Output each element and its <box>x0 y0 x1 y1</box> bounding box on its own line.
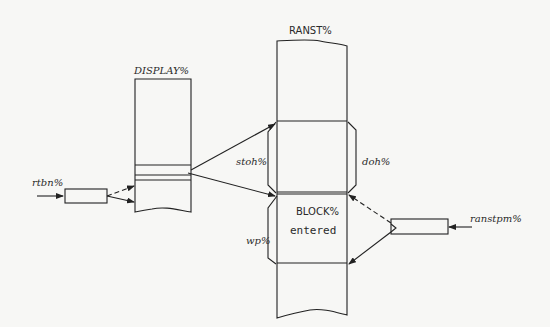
wp-bracket-line <box>268 196 277 264</box>
display-to-block-arrow <box>188 173 275 196</box>
doh-bracket: doh% <box>348 122 390 193</box>
wp-label: wp% <box>246 235 270 246</box>
ranstpm-box <box>391 219 448 234</box>
rtbn-label: rtbn% <box>32 177 63 188</box>
rtbn-solid-arrow <box>107 196 134 202</box>
ranst-stack: RANST% BLOCK% entered <box>277 25 347 318</box>
ranstpm-dashed-arrow <box>349 195 391 223</box>
rtbn-box <box>65 189 107 203</box>
ranstpm-solid-arrow <box>349 232 391 264</box>
block-label: BLOCK% <box>296 206 339 217</box>
stoh-bracket-line <box>268 122 276 193</box>
wp-bracket: wp% <box>246 196 277 264</box>
display-array: DISPLAY% <box>133 65 191 212</box>
doh-bracket-line <box>348 122 356 193</box>
entered-label: entered <box>290 224 336 237</box>
ranstpm-label: ranstpm% <box>470 213 522 224</box>
display-outline <box>135 79 191 212</box>
ranst-label: RANST% <box>289 25 332 36</box>
ranst-outline <box>277 40 347 318</box>
rtbn-dashed-arrow <box>107 186 134 196</box>
rtbn-register: rtbn% <box>32 177 134 203</box>
display-label: DISPLAY% <box>133 65 189 76</box>
stoh-bracket: stoh% <box>236 122 276 193</box>
stoh-label: stoh% <box>236 156 267 167</box>
memory-layout-diagram: DISPLAY% rtbn% RANST% BLOCK% entered sto… <box>0 0 550 327</box>
doh-label: doh% <box>362 156 390 167</box>
ranstpm-notch <box>391 224 396 232</box>
ranstpm-register: ranstpm% <box>349 195 522 264</box>
